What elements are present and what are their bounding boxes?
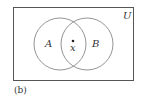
set-a-circle bbox=[34, 18, 86, 70]
figure-caption: (b) bbox=[14, 86, 27, 95]
element-label: x bbox=[70, 43, 76, 53]
set-b-circle bbox=[61, 18, 113, 70]
set-a-label: A bbox=[45, 39, 52, 49]
universe-label: U bbox=[123, 11, 131, 21]
set-b-label: B bbox=[92, 39, 99, 49]
